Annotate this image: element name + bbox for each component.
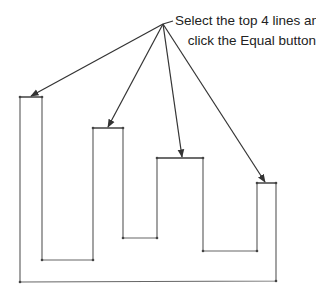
callout-leader bbox=[163, 21, 173, 24]
callout-line-2: click the Equal button bbox=[175, 31, 316, 51]
instruction-callout: Select the top 4 lines and click the Equ… bbox=[175, 11, 316, 51]
sketch-outline bbox=[20, 97, 276, 282]
callout-line-1: Select the top 4 lines and bbox=[175, 11, 316, 31]
vertex-dots bbox=[19, 96, 278, 284]
